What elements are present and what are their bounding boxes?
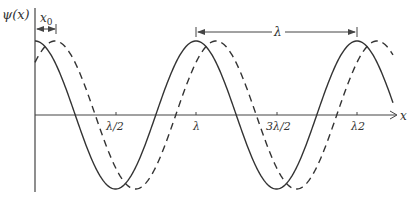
- tick-label-lambda: λ: [192, 120, 200, 133]
- wave-diagram: ψ(x) x0 λ x λ/2 λ 3λ/2 λ2: [0, 0, 411, 198]
- lambda-label: λ: [273, 25, 282, 39]
- tick-label-two: λ2: [350, 120, 365, 133]
- tick-label-three-half: 3λ/2: [266, 120, 291, 133]
- x-axis-label: x: [400, 109, 407, 123]
- tick-label-half: λ/2: [105, 120, 124, 133]
- x0-label: x0: [40, 11, 53, 27]
- y-axis-label: ψ(x): [2, 7, 30, 22]
